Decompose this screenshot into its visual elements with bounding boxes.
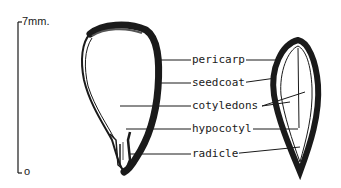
label-pericarp: pericarp [191, 54, 246, 66]
label-cotyledons: cotyledons [191, 100, 259, 112]
label-seedcoat: seedcoat [191, 77, 246, 89]
scale-bottom-label: o [24, 165, 30, 177]
label-hypocotyl: hypocotyl [191, 123, 253, 135]
seed-diagram: 7mm. o pericarp seedcoat cotyledons hypo… [0, 0, 341, 188]
left-seed [82, 25, 159, 172]
scale-bar [18, 22, 22, 173]
diagram-drawing [0, 0, 341, 188]
right-seed [273, 40, 318, 172]
scale-top-label: 7mm. [22, 15, 50, 27]
label-radicle: radicle [191, 148, 239, 160]
